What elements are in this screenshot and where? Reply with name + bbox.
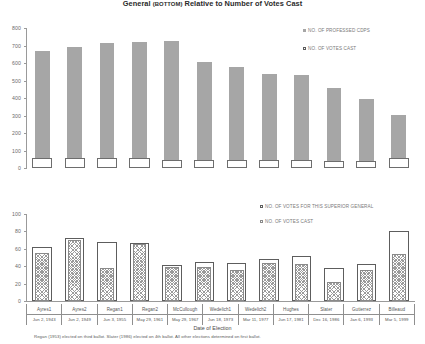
figure-title-prefix: General bbox=[123, 0, 153, 8]
bottom-chart-panel: 020406080100 NO. OF VOTES FOR THIS SUPER… bbox=[0, 196, 425, 304]
category-name: Ayres1 bbox=[37, 307, 51, 312]
bottom-bar-votes-for-superior-general bbox=[197, 267, 211, 301]
category-date: Dec 16, 1986 bbox=[313, 317, 339, 322]
top-bar-votes-cast bbox=[162, 160, 182, 168]
category-date: Jan 6, 1993 bbox=[350, 317, 373, 322]
chart-figure: General (BOTTOM) Relative to Number of V… bbox=[0, 0, 425, 344]
bottom-legend-label-1: NO. OF VOTES CAST bbox=[265, 219, 313, 224]
figure-title-suffix: Relative to Number of Votes Cast bbox=[182, 0, 302, 8]
bottom-legend-item-1: NO. OF VOTES CAST bbox=[260, 219, 313, 224]
category-date: Jun 2, 1943 bbox=[33, 317, 56, 322]
top-y-tick bbox=[24, 133, 26, 134]
category-column: Regan1Jun 3, 1955 bbox=[97, 304, 132, 325]
top-bar-professed bbox=[359, 99, 374, 168]
top-bar-professed bbox=[100, 43, 115, 168]
bottom-y-tick bbox=[24, 266, 26, 267]
bottom-y-tick bbox=[24, 249, 26, 250]
bottom-bar-votes-for-superior-general bbox=[35, 253, 49, 301]
category-separator bbox=[168, 314, 202, 315]
top-bar-votes-cast bbox=[291, 160, 311, 168]
category-name: Wedelich1 bbox=[210, 307, 231, 312]
top-bar-votes-cast bbox=[227, 160, 247, 168]
top-y-tick-label: 400 bbox=[3, 95, 21, 101]
category-name: Gutierrez bbox=[352, 307, 371, 312]
figure-title: General (BOTTOM) Relative to Number of V… bbox=[0, 0, 425, 8]
bottom-y-tick bbox=[24, 231, 26, 232]
category-column: McCulloughMay 29, 1967 bbox=[167, 304, 202, 325]
category-name: Regan2 bbox=[142, 307, 158, 312]
top-bar-professed bbox=[294, 75, 309, 168]
top-y-tick-label: 600 bbox=[3, 60, 21, 66]
category-separator bbox=[98, 314, 132, 315]
category-date: Mar 11, 1977 bbox=[243, 317, 269, 322]
top-y-tick bbox=[24, 168, 26, 169]
category-name: Hughes bbox=[283, 307, 299, 312]
top-legend-item-0: NO. OF PROFESSED CDPS bbox=[303, 28, 370, 33]
category-name: Regan1 bbox=[107, 307, 123, 312]
figure-title-qualifier: (BOTTOM) bbox=[153, 1, 183, 7]
bottom-y-tick-label: 80 bbox=[3, 228, 21, 234]
bottom-legend-label-0: NO. OF VOTES FOR THIS SUPERIOR GENERAL bbox=[265, 204, 373, 209]
x-axis-title: Date of Election bbox=[0, 325, 425, 331]
top-y-tick-label: 200 bbox=[3, 130, 21, 136]
top-bar-votes-cast bbox=[32, 158, 52, 168]
top-y-tick-label: 800 bbox=[3, 25, 21, 31]
top-y-tick-label: 300 bbox=[3, 113, 21, 119]
category-column: Wedelich2Mar 11, 1977 bbox=[238, 304, 273, 325]
category-separator bbox=[380, 314, 414, 315]
top-y-tick bbox=[24, 46, 26, 47]
top-y-tick bbox=[24, 28, 26, 29]
bottom-bar-votes-for-superior-general bbox=[100, 268, 114, 301]
category-column: Ayres1Jun 2, 1943 bbox=[26, 304, 61, 325]
category-name: McCullough bbox=[173, 307, 197, 312]
top-legend-item-1: NO. OF VOTES CAST bbox=[303, 46, 356, 51]
top-y-tick-label: 500 bbox=[3, 78, 21, 84]
category-date: Jun 2, 1949 bbox=[68, 317, 91, 322]
category-separator bbox=[344, 314, 378, 315]
top-bar-professed bbox=[67, 47, 82, 168]
top-y-axis-line bbox=[26, 28, 27, 169]
category-date: May 29, 1961 bbox=[137, 317, 164, 322]
top-y-tick bbox=[24, 116, 26, 117]
top-bar-votes-cast bbox=[97, 158, 117, 168]
category-separator bbox=[27, 314, 61, 315]
category-separator bbox=[274, 314, 308, 315]
hatched-square-icon bbox=[260, 220, 263, 223]
category-column: Ayres2Jun 2, 1949 bbox=[61, 304, 96, 325]
top-legend-label-0: NO. OF PROFESSED CDPS bbox=[308, 28, 370, 33]
category-column: BilleaudMar 5, 1999 bbox=[379, 304, 415, 325]
bottom-y-tick-label: 40 bbox=[3, 263, 21, 269]
top-y-tick-label: 100 bbox=[3, 148, 21, 154]
category-separator bbox=[239, 314, 273, 315]
category-separator bbox=[133, 314, 167, 315]
top-bar-professed bbox=[262, 74, 277, 169]
bottom-bar-votes-for-superior-general bbox=[295, 264, 309, 301]
category-column: HughesJun 17, 1981 bbox=[273, 304, 308, 325]
top-bar-votes-cast bbox=[324, 161, 344, 168]
category-column: Wedelich1Jun 18, 1973 bbox=[202, 304, 237, 325]
top-bar-votes-cast bbox=[259, 160, 279, 168]
bottom-bar-votes-for-superior-general bbox=[230, 270, 244, 301]
open-square-icon bbox=[260, 205, 263, 208]
category-date: May 29, 1967 bbox=[172, 317, 199, 322]
top-bar-professed bbox=[327, 88, 342, 169]
category-date: Jun 3, 1955 bbox=[103, 317, 126, 322]
bottom-bar-votes-for-superior-general bbox=[68, 240, 82, 301]
top-chart-panel: 0100200300400500600700800 NO. OF PROFESS… bbox=[0, 8, 425, 183]
top-y-tick bbox=[24, 151, 26, 152]
category-date: Jun 18, 1973 bbox=[208, 317, 233, 322]
open-square-icon bbox=[303, 47, 306, 50]
category-axis-table: Ayres1Jun 2, 1943Ayres2Jun 2, 1949Regan1… bbox=[26, 304, 415, 325]
bottom-legend-item-0: NO. OF VOTES FOR THIS SUPERIOR GENERAL bbox=[260, 204, 373, 209]
category-date: Mar 5, 1999 bbox=[385, 317, 408, 322]
category-column: GutierrezJan 6, 1993 bbox=[343, 304, 378, 325]
top-y-tick-label: 700 bbox=[3, 43, 21, 49]
bottom-y-tick-label: 100 bbox=[3, 211, 21, 217]
top-y-tick bbox=[24, 63, 26, 64]
top-bar-professed bbox=[132, 42, 147, 168]
figure-footnote: Regan (1953) elected on third ballot. Sl… bbox=[34, 334, 414, 339]
category-name: Wedelich2 bbox=[245, 307, 266, 312]
top-y-tick bbox=[24, 81, 26, 82]
category-date: Jun 17, 1981 bbox=[278, 317, 303, 322]
gray-square-icon bbox=[303, 29, 306, 32]
